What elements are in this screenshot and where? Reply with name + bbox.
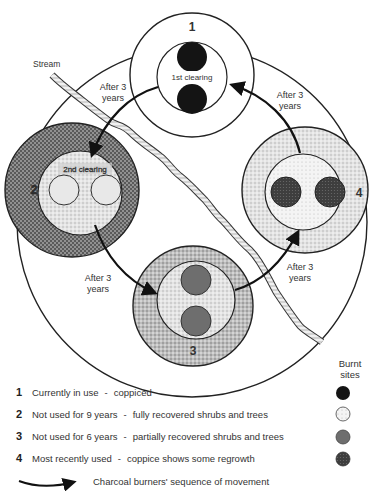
site-2: 2nd clearing 2 — [5, 123, 139, 257]
legend-swatch-2 — [336, 407, 350, 421]
site-number: 1 — [189, 20, 196, 34]
site-number: 4 — [356, 186, 363, 200]
burnt-site — [271, 177, 301, 207]
burnt-site — [177, 84, 207, 114]
legend-swatch-3 — [336, 430, 350, 444]
burnt-site — [181, 265, 211, 295]
burnt-site — [315, 177, 345, 207]
burnt-site — [91, 175, 121, 205]
arrow-label-3-line2: years — [289, 273, 312, 283]
clearing-label: 2nd clearing — [63, 165, 107, 174]
stream-label: Stream — [33, 59, 60, 69]
site-3: 3 — [133, 246, 253, 366]
legend-swatches — [336, 386, 350, 466]
arrow-label-2-line1: After 3 — [85, 273, 112, 283]
legend-sequence-arrow-icon — [19, 481, 74, 486]
arrow-label-4-line2: years — [279, 101, 302, 111]
burnt-site — [177, 42, 207, 72]
legend-swatch-4 — [336, 452, 350, 466]
site-number: 3 — [190, 344, 197, 358]
site-number: 2 — [31, 183, 38, 197]
burnt-site — [49, 175, 79, 205]
charcoal-sites-diagram: Stream 1st clearing 1 2nd clearing 2 3 4 — [0, 0, 385, 503]
legend-swatch-1 — [336, 386, 350, 400]
site-4: 4 — [242, 127, 368, 253]
site-1: 1st clearing 1 — [130, 13, 254, 137]
arrow-label-3-line1: After 3 — [287, 262, 314, 272]
burnt-site — [181, 306, 211, 336]
arrow-label-1-line1: After 3 — [100, 82, 127, 92]
clearing-label: 1st clearing — [172, 73, 213, 82]
arrow-label-4-line1: After 3 — [277, 90, 304, 100]
arrow-label-2-line2: years — [87, 284, 110, 294]
arrow-label-1-line2: years — [102, 93, 125, 103]
